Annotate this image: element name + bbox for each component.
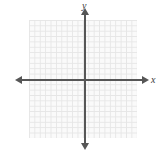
x-axis-line: [19, 79, 147, 81]
x-axis-right-arrow-icon: [142, 76, 149, 84]
x-axis-label: x: [151, 75, 155, 85]
y-axis-label: y: [82, 1, 86, 11]
y-axis-line: [84, 11, 86, 148]
y-axis-down-arrow-icon: [81, 143, 89, 150]
coordinate-plane-figure: x y: [0, 0, 162, 158]
x-axis-left-arrow-icon: [15, 76, 22, 84]
